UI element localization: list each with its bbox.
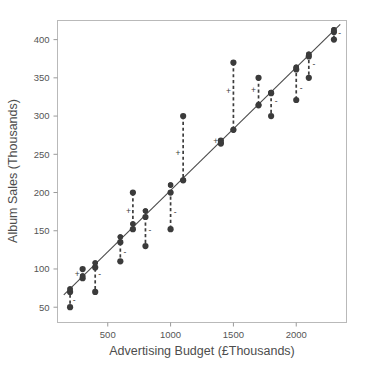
fitted-value-point bbox=[118, 234, 123, 239]
x-tick-label: 1000 bbox=[160, 329, 181, 340]
residual-sign-label: - bbox=[73, 295, 76, 305]
residual-sign-label: + bbox=[226, 86, 231, 96]
data-point bbox=[268, 113, 274, 119]
residual-sign-label: - bbox=[174, 207, 177, 217]
fitted-value-point bbox=[256, 102, 261, 107]
data-point bbox=[142, 214, 148, 220]
x-tick-label: 1500 bbox=[223, 329, 244, 340]
data-point bbox=[130, 189, 136, 195]
y-tick-label: 250 bbox=[34, 149, 50, 160]
y-axis-label: Album Sales (Thousands) bbox=[6, 99, 20, 243]
fitted-value-point bbox=[306, 51, 311, 56]
residual-sign-label: + bbox=[175, 148, 180, 158]
residual-sign-label: - bbox=[338, 28, 341, 38]
data-point bbox=[117, 239, 123, 245]
data-point bbox=[142, 243, 148, 249]
fitted-value-point bbox=[92, 260, 97, 265]
data-point bbox=[167, 226, 173, 232]
x-tick-label: 2000 bbox=[286, 329, 307, 340]
data-point bbox=[255, 75, 261, 81]
residual-sign-label: - bbox=[123, 247, 126, 257]
residual-sign-label: - bbox=[300, 83, 303, 93]
data-point bbox=[92, 289, 98, 295]
residual-sign-label: + bbox=[126, 206, 131, 216]
fitted-value-point bbox=[268, 90, 273, 95]
y-tick-label: 50 bbox=[39, 302, 50, 313]
data-point bbox=[167, 189, 173, 195]
residual-sign-label: - bbox=[149, 225, 152, 235]
y-tick-label: 200 bbox=[34, 187, 50, 198]
y-tick-label: 400 bbox=[34, 34, 50, 45]
residual-sign-label: - bbox=[98, 269, 101, 279]
fitted-value-point bbox=[80, 273, 85, 278]
y-tick-label: 100 bbox=[34, 263, 50, 274]
fitted-value-point bbox=[143, 208, 148, 213]
fitted-value-point bbox=[231, 127, 236, 132]
residual-sign-label: - bbox=[275, 96, 278, 106]
data-point bbox=[230, 59, 236, 65]
x-tick-label: 500 bbox=[100, 329, 116, 340]
data-point bbox=[117, 258, 123, 264]
fitted-value-point bbox=[218, 140, 223, 145]
residual-sign-label: - bbox=[312, 59, 315, 69]
y-tick-label: 150 bbox=[34, 225, 50, 236]
y-tick-label: 350 bbox=[34, 72, 50, 83]
data-point bbox=[67, 304, 73, 310]
data-point bbox=[306, 75, 312, 81]
fitted-value-point bbox=[294, 64, 299, 69]
fitted-value-point bbox=[180, 178, 185, 183]
residual-sign-label: + bbox=[213, 136, 218, 146]
y-tick-label: 300 bbox=[34, 110, 50, 121]
data-point bbox=[130, 226, 136, 232]
scatter-plot-figure: 500100015002000 50100150200250300350400 … bbox=[0, 0, 366, 376]
fitted-value-point bbox=[331, 27, 336, 32]
data-point bbox=[293, 97, 299, 103]
fitted-value-point bbox=[67, 286, 72, 291]
data-point bbox=[180, 113, 186, 119]
residual-sign-label: + bbox=[251, 85, 256, 95]
fitted-value-point bbox=[130, 221, 135, 226]
residual-sign-label: + bbox=[75, 269, 80, 279]
x-axis-label: Advertising Budget (£Thousands) bbox=[109, 344, 295, 358]
data-point bbox=[331, 37, 337, 43]
fitted-value-point bbox=[168, 182, 173, 187]
data-point bbox=[80, 266, 86, 272]
chart-canvas: 500100015002000 50100150200250300350400 … bbox=[0, 0, 366, 376]
